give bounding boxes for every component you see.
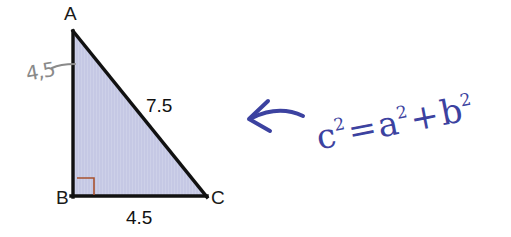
vertex-label-a: A: [64, 4, 77, 23]
handwritten-leg-length: 4,5: [24, 57, 57, 86]
diagram-canvas: A B C 7.5 4.5 4,5 c2=a2+b2: [0, 0, 511, 237]
vertex-label-b: B: [56, 188, 69, 207]
vertex-label-c: C: [211, 188, 225, 207]
side-label-hypotenuse: 7.5: [146, 96, 172, 115]
side-label-base: 4.5: [126, 208, 152, 227]
